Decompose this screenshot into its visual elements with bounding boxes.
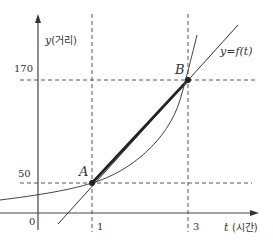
y-axis-arrow-icon	[35, 14, 41, 23]
point-A	[89, 180, 95, 186]
y-tick-170: 170	[14, 63, 33, 74]
y-suffix: (거리)	[51, 35, 77, 46]
segment-AB	[92, 80, 188, 183]
x-tick-1: 1	[97, 221, 103, 232]
x-tick-3: 3	[193, 221, 199, 232]
origin-label: 0	[29, 216, 35, 227]
graph-canvas	[0, 0, 273, 240]
y-tick-50: 50	[18, 168, 31, 179]
label-A: A	[79, 164, 88, 179]
x-suffix: (시간)	[232, 222, 258, 233]
point-B	[185, 77, 191, 83]
x-var: t	[224, 221, 228, 234]
x-axis-arrow-icon	[250, 210, 259, 216]
x-axis-label: t (시간)	[224, 219, 258, 234]
label-B: B	[175, 62, 185, 77]
y-axis-label: y(거리)	[45, 32, 77, 47]
curve-label: y=f(t)	[220, 45, 253, 58]
